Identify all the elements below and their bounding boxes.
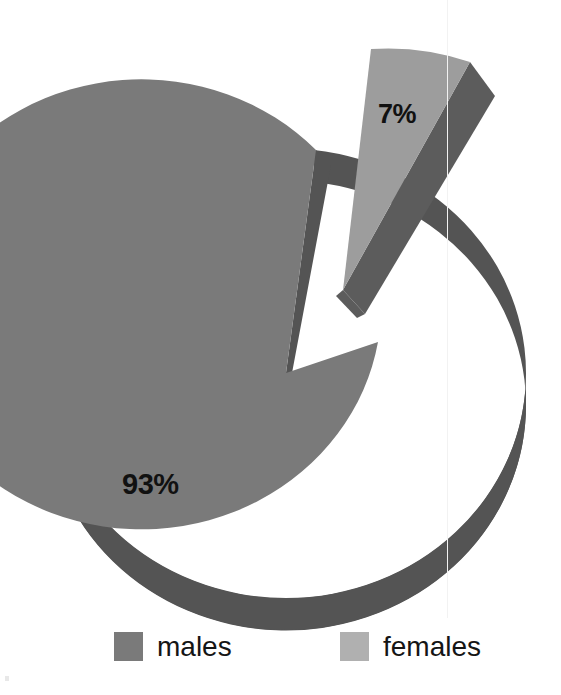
legend-label-males: males (157, 632, 232, 661)
legend-swatch-females (340, 632, 369, 661)
slice-label-males: 93% (122, 468, 179, 501)
scan-artifact-mark (5, 676, 9, 681)
scan-artifact-line (447, 0, 448, 618)
legend-item-males: males (114, 632, 232, 661)
legend-swatch-males (114, 632, 143, 661)
main-slice-top-face (0, 79, 378, 529)
legend-item-females: females (340, 632, 481, 661)
legend-label-females: females (383, 632, 481, 661)
pie-chart-figure: 93% 7% males females (0, 0, 561, 695)
exploded-slice-group (336, 48, 495, 318)
slice-label-females: 7% (378, 99, 416, 130)
chart-legend: males females (0, 632, 561, 672)
pie-chart-graphic (0, 0, 561, 695)
